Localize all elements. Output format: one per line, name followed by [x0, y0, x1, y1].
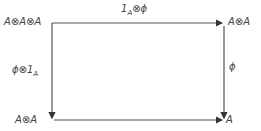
arrow-left-label-main: ϕ⊗1	[12, 64, 33, 75]
arrow-right-label: ϕ	[229, 62, 236, 72]
arrow-left-label: ϕ⊗1A	[12, 65, 38, 78]
node-bottom-right: A	[226, 115, 233, 125]
arrow-top-label: 1A⊗ϕ	[121, 4, 147, 17]
node-top-left: A⊗A⊗A	[4, 17, 41, 27]
node-bottom-left: A⊗A	[15, 115, 37, 125]
arrow-left-label-sub: A	[33, 70, 38, 78]
node-top-right: A⊗A	[228, 17, 250, 27]
arrow-top-label-rest: ⊗ϕ	[132, 3, 147, 14]
